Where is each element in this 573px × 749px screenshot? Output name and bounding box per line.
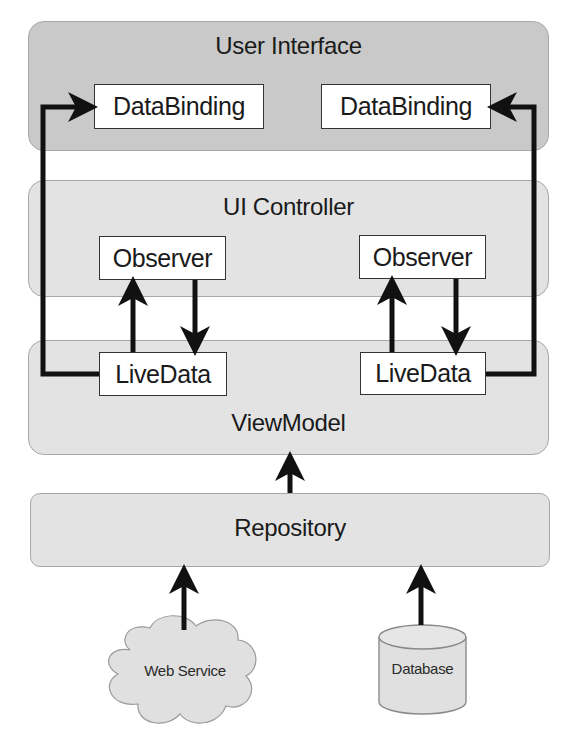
web-service-label: Web Service (120, 662, 250, 679)
observer-node-right: Observer (359, 235, 486, 279)
livedata-node-right: LiveData (360, 352, 486, 395)
databinding-node-left: DataBinding (94, 84, 264, 129)
repository-layer: Repository (30, 493, 550, 567)
databinding-node-right: DataBinding (321, 84, 491, 129)
livedata-node-left: LiveData (99, 352, 227, 396)
repository-title: Repository (31, 514, 549, 542)
observer-node-left: Observer (99, 236, 226, 280)
user-interface-title: User Interface (29, 32, 548, 60)
viewmodel-title: ViewModel (29, 409, 548, 437)
database-label: Database (379, 660, 466, 677)
ui-controller-title: UI Controller (29, 193, 548, 221)
